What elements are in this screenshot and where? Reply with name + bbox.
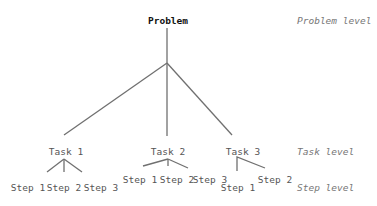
problem-level-label: Problem level (297, 16, 371, 26)
task1-step-1: Step 1 (11, 183, 45, 193)
task-node-1: Task 1 (49, 147, 83, 157)
step-level-label: Step level (297, 183, 354, 193)
edge-root-task1 (64, 63, 167, 135)
task3-step-1: Step 1 (221, 183, 255, 193)
task3-step-2: Step 2 (258, 175, 292, 185)
task2-step-1: Step 1 (123, 175, 157, 185)
task2-step-2: Step 2 (160, 175, 194, 185)
task1-step-3: Step 3 (84, 183, 118, 193)
task-node-3: Task 3 (226, 147, 260, 157)
task-level-label: Task level (297, 147, 354, 157)
task-node-2: Task 2 (151, 147, 185, 157)
task1-step-2: Step 2 (47, 183, 81, 193)
problem-node: Problem (148, 16, 188, 26)
edge-root-task3 (167, 63, 232, 135)
